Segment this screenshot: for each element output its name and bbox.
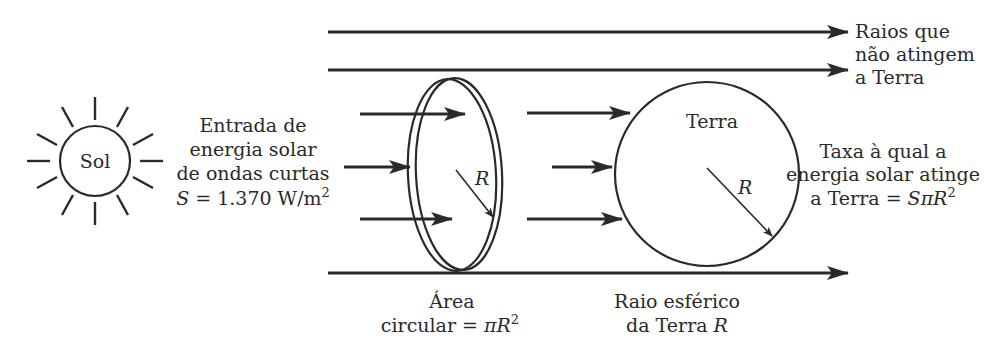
disk-caption: Área circular = πR2 (381, 290, 519, 336)
input-label-line2: energia solar (189, 138, 317, 160)
disk-caption-R: R (496, 314, 511, 336)
missed-rays-line2: não atingem (855, 43, 975, 65)
input-label-line3: de ondas curtas (176, 162, 329, 184)
input-label-line1: Entrada de (199, 114, 306, 136)
solar-energy-diagram: Sol Entrada de energia solar de ondas cu… (0, 0, 1002, 349)
missed-rays-label: Raios que não atingem a Terra (855, 20, 975, 88)
circular-area-disk: R (403, 76, 507, 273)
sun-icon: Sol (27, 97, 163, 225)
earth-caption-R: R (713, 314, 728, 336)
solar-constant-symbol: S (176, 187, 189, 209)
missed-rays-line3: a Terra (855, 66, 924, 88)
rate-formula-exponent: 2 (947, 185, 955, 200)
earth-caption-line2: da Terra R (626, 314, 728, 336)
sun-label: Sol (80, 150, 111, 172)
solar-constant-exponent: 2 (322, 185, 330, 200)
earth-caption-prefix: da Terra (626, 314, 714, 336)
disk-radius-label: R (474, 167, 489, 189)
earth-sphere: Terra R (615, 82, 799, 266)
earth-caption: Raio esférico da Terra R (614, 290, 740, 336)
missed-rays-line1: Raios que (855, 20, 950, 42)
solar-input-label: Entrada de energia solar de ondas curtas… (176, 114, 330, 209)
earth-label: Terra (686, 110, 738, 132)
disk-caption-prefix: circular = (381, 314, 484, 336)
solar-constant-value: = 1.370 W/m (189, 187, 321, 209)
rate-label-prefix: a Terra = (810, 187, 907, 209)
earth-caption-line1: Raio esférico (614, 290, 740, 312)
disk-caption-pi: π (483, 314, 497, 336)
disk-caption-line1: Área (428, 290, 474, 312)
rate-label-line1: Taxa à qual a (819, 140, 946, 162)
rate-label-line2: energia solar atinge (786, 163, 980, 185)
input-label-line4: S = 1.370 W/m2 (176, 185, 330, 209)
disk-caption-exponent: 2 (511, 312, 519, 327)
disk-caption-line2: circular = πR2 (381, 312, 519, 336)
earth-radius-label: R (737, 176, 752, 198)
energy-rate-label: Taxa à qual a energia solar atinge a Ter… (786, 140, 980, 209)
rate-label-line3: a Terra = SπR2 (810, 185, 955, 209)
rate-formula: SπR (908, 187, 948, 209)
